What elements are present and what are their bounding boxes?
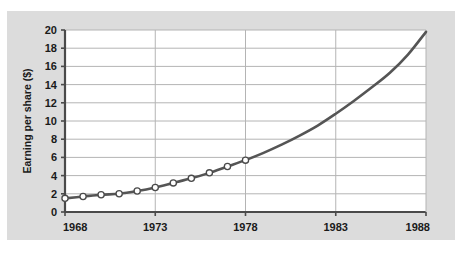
y-tick-label-14: 14 <box>45 79 58 91</box>
y-tick-label-6: 6 <box>51 151 57 163</box>
data-point-1970 <box>98 192 104 198</box>
data-point-1973 <box>152 184 158 190</box>
line-chart: 0246810121416182019681973197819831988Ear… <box>0 0 470 260</box>
y-axis-title: Earning per share ($) <box>21 68 33 173</box>
data-point-1977 <box>224 163 230 169</box>
x-tick-label-1978: 1978 <box>233 221 257 233</box>
data-point-1968 <box>62 195 68 201</box>
y-tick-label-10: 10 <box>45 115 57 127</box>
y-tick-label-4: 4 <box>51 170 58 182</box>
data-point-1971 <box>116 191 122 197</box>
data-point-1976 <box>206 170 212 176</box>
y-tick-label-0: 0 <box>51 206 57 218</box>
y-tick-label-16: 16 <box>45 60 57 72</box>
y-tick-label-2: 2 <box>51 188 57 200</box>
y-tick-label-12: 12 <box>45 97 57 109</box>
y-tick-label-18: 18 <box>45 42 57 54</box>
x-tick-label-1988: 1988 <box>406 221 430 233</box>
y-tick-label-20: 20 <box>45 24 57 36</box>
data-point-1975 <box>188 175 194 181</box>
data-point-1974 <box>170 180 176 186</box>
figure-container: 0246810121416182019681973197819831988Ear… <box>0 0 470 260</box>
x-tick-label-1973: 1973 <box>143 221 167 233</box>
x-axis-ticks: 19681973197819831988 <box>63 212 430 233</box>
data-point-1972 <box>134 188 140 194</box>
data-point-1969 <box>80 193 86 199</box>
x-tick-label-1983: 1983 <box>324 221 348 233</box>
data-point-1978 <box>242 157 248 163</box>
y-tick-label-8: 8 <box>51 133 57 145</box>
x-tick-label-1968: 1968 <box>63 221 87 233</box>
y-axis-ticks: 02468101214161820 <box>45 24 65 218</box>
